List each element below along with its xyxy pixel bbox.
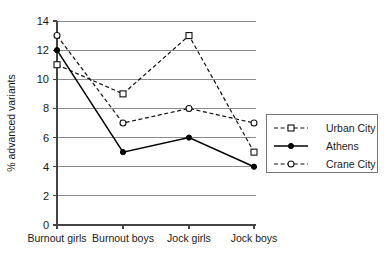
y-tick-label: 12 — [37, 44, 49, 56]
data-point-marker — [251, 120, 257, 126]
x-axis-label: Jock boys — [231, 232, 278, 244]
data-point-marker — [186, 105, 192, 111]
y-tick-label: 4 — [43, 161, 49, 173]
x-axis-label: Jock girls — [167, 232, 211, 244]
data-point-marker — [186, 33, 192, 39]
data-point-marker — [120, 120, 126, 126]
chart-container: 02468101214 Burnout girlsBurnout boysJoc… — [0, 0, 387, 258]
y-tick-label: 2 — [43, 190, 49, 202]
data-point-marker — [54, 33, 60, 39]
y-tick-label: 8 — [43, 102, 49, 114]
y-tick-label: 6 — [43, 132, 49, 144]
gridlines-group — [57, 21, 256, 196]
series-line-urban-city — [57, 36, 254, 153]
x-axis-labels-group: Burnout girlsBurnout boysJock girlsJock … — [28, 232, 278, 244]
data-point-marker — [120, 91, 126, 97]
line-chart: 02468101214 Burnout girlsBurnout boysJoc… — [0, 0, 387, 258]
data-point-marker — [54, 62, 60, 68]
x-axis-label: Burnout boys — [92, 232, 154, 244]
x-axis-ticks-group — [57, 225, 254, 229]
y-tick-label: 14 — [37, 15, 49, 27]
data-point-marker — [54, 48, 59, 53]
y-axis-ticks-group: 02468101214 — [37, 15, 57, 231]
y-tick-label: 10 — [37, 73, 49, 85]
legend-label: Urban City — [326, 122, 376, 134]
y-tick-label: 0 — [43, 219, 49, 231]
legend-label: Athens — [326, 140, 359, 152]
y-axis-title: % advanced variants — [5, 74, 17, 171]
data-point-marker — [186, 135, 191, 140]
data-point-marker — [251, 149, 257, 155]
legend-swatch-marker — [288, 125, 294, 131]
x-axis-label: Burnout girls — [28, 232, 87, 244]
legend-swatch-marker — [288, 161, 294, 167]
legend-swatch-marker — [288, 143, 293, 148]
data-point-marker — [120, 150, 125, 155]
series-layer — [54, 33, 257, 170]
data-point-marker — [251, 164, 256, 169]
legend-label: Crane City — [326, 158, 376, 170]
